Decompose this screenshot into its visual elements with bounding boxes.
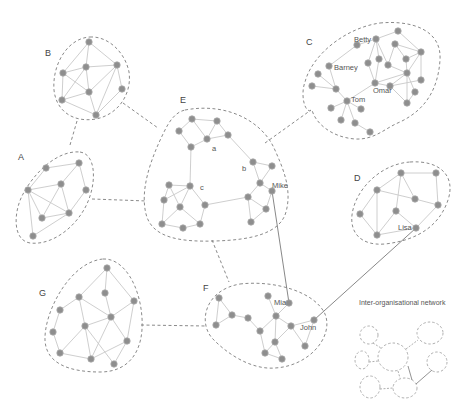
person-label-c: c [200, 183, 204, 192]
inset-title: Inter-organisational network [359, 299, 446, 307]
cluster-b-edges [62, 42, 122, 115]
mini-cluster-c [417, 322, 443, 344]
cluster-label-g: G [39, 288, 46, 298]
cluster-b-boundary [54, 37, 130, 120]
cluster-label-b: B [45, 48, 51, 58]
network-diagram: A B C D E F G Betty Barney Omar Tom a b … [0, 0, 466, 411]
person-label-mike: Mike [272, 181, 288, 190]
link-lisa-john [314, 228, 416, 320]
cluster-labels: A B C D E F G [18, 37, 361, 298]
person-label-barney: Barney [334, 63, 358, 72]
link-e-c [265, 110, 311, 143]
cluster-label-c: C [306, 37, 313, 47]
mini-cluster-a [355, 351, 369, 369]
cluster-e-edges [162, 119, 272, 228]
mini-cluster-d [427, 352, 447, 372]
cluster-g-edges [53, 268, 134, 364]
person-labels: Betty Barney Omar Tom a b c Mike Lisa Mi… [200, 35, 413, 332]
mini-cluster-g [360, 376, 380, 398]
cluster-hulls [16, 22, 450, 372]
link-b-e [123, 103, 158, 128]
person-label-john: John [300, 323, 316, 332]
person-label-betty: Betty [354, 35, 371, 44]
cluster-e-boundary [144, 108, 288, 241]
link-b-a [70, 121, 77, 145]
link-g-f [141, 325, 206, 326]
person-label-tom: Tom [351, 95, 365, 104]
link-a-e [92, 199, 147, 201]
cluster-label-e: E [180, 95, 186, 105]
person-label-mia: Mia [274, 298, 287, 307]
person-label-b: b [242, 164, 246, 173]
cluster-a-edges [28, 163, 86, 236]
cluster-c-edges [312, 31, 421, 132]
mini-cluster-b [360, 326, 378, 344]
cluster-label-a: A [18, 152, 24, 162]
cluster-label-d: D [354, 173, 361, 183]
mini-cluster-f [393, 378, 417, 398]
cluster-label-f: F [203, 283, 209, 293]
inter-org-network-inset: Inter-organisational network [355, 299, 447, 398]
person-label-lisa: Lisa [398, 223, 413, 232]
person-label-a: a [212, 144, 217, 153]
mini-cluster-e [378, 343, 408, 371]
person-label-omar: Omar [373, 86, 392, 95]
cluster-a-boundary [16, 152, 93, 243]
link-e-f [212, 240, 229, 282]
